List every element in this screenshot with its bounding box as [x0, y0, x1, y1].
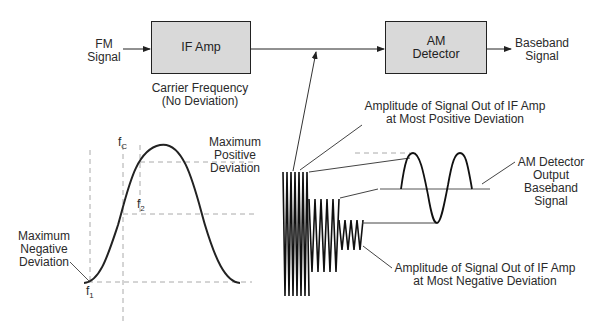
- am-detector-block: AM Detector: [385, 21, 487, 74]
- waveform-pointer-arrow: [293, 52, 316, 171]
- fc-label: fC: [118, 136, 127, 150]
- if-output-waveform: [283, 172, 363, 296]
- fm-signal-label: FM Signal: [86, 38, 122, 64]
- detector-output-annotation: AM Detector Output Baseband Signal: [516, 156, 586, 208]
- carrier-frequency-note: Carrier Frequency (No Deviation): [150, 82, 250, 108]
- max-negative-deviation-label: Maximum Negative Deviation: [14, 230, 74, 269]
- most-negative-annotation: Amplitude of Signal Out of IF Amp at Mos…: [393, 262, 577, 288]
- most-positive-annotation: Amplitude of Signal Out of IF Amp at Mos…: [364, 100, 546, 126]
- am-detector-label-2: Detector: [412, 48, 459, 61]
- am-detector-label-1: AM: [427, 35, 446, 48]
- f2-label: f2: [137, 198, 145, 212]
- waveform-leaders: [300, 125, 515, 268]
- max-positive-deviation-label: Maximum Positive Deviation: [205, 136, 265, 175]
- f1-label: f1: [86, 285, 94, 299]
- if-amp-label: IF Amp: [181, 41, 221, 54]
- if-amp-block: IF Amp: [151, 21, 251, 74]
- detector-output-sine: [401, 153, 472, 223]
- baseband-output-label: Baseband Signal: [512, 37, 572, 63]
